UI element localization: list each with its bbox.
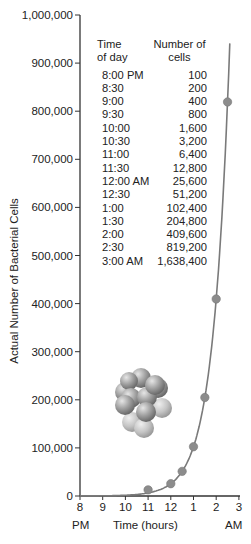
cells-count-cell: 819,200 <box>167 241 207 254</box>
cells-count-cell: 409,600 <box>167 228 207 241</box>
y-tick-label: 700,000 <box>31 153 73 165</box>
time-cell: 10:30 <box>97 135 130 148</box>
table-row: 12:3051,200 <box>97 188 207 201</box>
y-tick-label: 300,000 <box>31 346 73 358</box>
data-point <box>201 393 209 401</box>
cells-count-cell: 25,600 <box>173 175 207 188</box>
cells-count-cell: 102,400 <box>167 202 207 215</box>
table-row: 9:30800 <box>97 108 207 121</box>
time-cell: 12:00 AM <box>97 175 149 188</box>
time-cell: 8:00 PM <box>97 69 144 82</box>
header-number-of-cells: Number ofcells <box>152 38 207 65</box>
cells-count-cell: 3,200 <box>179 135 207 148</box>
cells-count-cell: 800 <box>188 108 207 121</box>
data-point <box>212 295 220 303</box>
cells-count-cell: 1,638,400 <box>157 255 207 268</box>
y-tick-label: 600,000 <box>31 201 73 213</box>
time-cell: 9:30 <box>97 108 124 121</box>
table-row: 9:00400 <box>97 95 207 108</box>
y-axis-title: Actual Number of Bacterial Cells <box>8 171 20 391</box>
time-cell: 11:00 <box>97 148 129 161</box>
y-tick-label: 500,000 <box>31 250 73 262</box>
y-tick-label: 100,000 <box>31 442 73 454</box>
time-cell: 10:00 <box>97 122 130 135</box>
data-point <box>178 467 186 475</box>
cells-count-cell: 400 <box>188 95 207 108</box>
x-tick-label: 9 <box>93 501 113 513</box>
cells-count-cell: 1,600 <box>179 122 207 135</box>
cells-count-cell: 200 <box>188 82 207 95</box>
bacteria-cluster-illustration <box>115 368 172 438</box>
y-tick-label: 1,000,000 <box>22 9 73 21</box>
x-tick-label: 2 <box>206 501 226 513</box>
table-row: 10:001,600 <box>97 122 207 135</box>
header-time-of-day: Timeof day <box>97 38 127 65</box>
cells-count-cell: 204,800 <box>167 215 207 228</box>
data-point <box>167 479 175 487</box>
table-row: 11:3012,800 <box>97 162 207 175</box>
x-tick-label: 8 <box>70 501 90 513</box>
table-row: 8:30200 <box>97 82 207 95</box>
table-row: 1:30204,800 <box>97 215 207 228</box>
table-body: 8:00 PM1008:302009:004009:3080010:001,60… <box>97 69 207 268</box>
cells-count-cell: 6,400 <box>179 148 207 161</box>
cells-count-cell: 12,800 <box>173 162 207 175</box>
time-cell: 9:00 <box>97 95 124 108</box>
time-cell: 8:30 <box>97 82 124 95</box>
x-tick-label: 3 <box>229 501 249 513</box>
table-row: 2:30819,200 <box>97 241 207 254</box>
time-cell: 2:30 <box>97 241 124 254</box>
time-cell: 12:30 <box>97 188 130 201</box>
data-point <box>223 98 231 106</box>
data-point <box>189 443 197 451</box>
time-cell: 11:30 <box>97 162 129 175</box>
y-tick-label: 400,000 <box>31 298 73 310</box>
table-row: 1:00102,400 <box>97 202 207 215</box>
x-axis-title: Time (hours) <box>113 519 223 531</box>
y-tick-label: 200,000 <box>31 394 73 406</box>
x-tick-label: 1 <box>184 501 204 513</box>
y-tick-label: 800,000 <box>31 105 73 117</box>
y-ticks <box>75 15 80 496</box>
x-tick-label: 10 <box>115 501 135 513</box>
time-cell: 1:30 <box>97 215 124 228</box>
time-cell: 3:00 AM <box>97 255 143 268</box>
table-row: 10:303,200 <box>97 135 207 148</box>
table-row: 12:00 AM25,600 <box>97 175 207 188</box>
y-tick-label: 900,000 <box>31 57 73 69</box>
pm-label: PM <box>72 519 89 531</box>
table-row: 2:00409,600 <box>97 228 207 241</box>
table-header: Timeof day Number ofcells <box>97 38 207 65</box>
table-row: 8:00 PM100 <box>97 69 207 82</box>
time-cell: 1:00 <box>97 202 124 215</box>
x-tick-label: 12 <box>161 501 181 513</box>
data-point <box>144 486 152 494</box>
cells-count-cell: 100 <box>188 69 207 82</box>
am-label: AM <box>225 519 242 531</box>
time-cell: 2:00 <box>97 228 124 241</box>
table-row: 11:006,400 <box>97 148 207 161</box>
inset-data-table: Timeof day Number ofcells 8:00 PM1008:30… <box>97 38 207 268</box>
x-tick-label: 11 <box>138 501 158 513</box>
table-row: 3:00 AM1,638,400 <box>97 255 207 268</box>
cells-count-cell: 51,200 <box>173 188 207 201</box>
